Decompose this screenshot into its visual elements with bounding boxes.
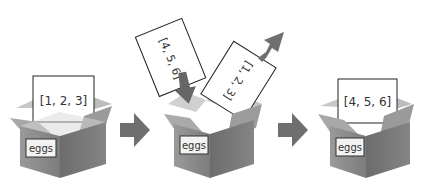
step3-box: [4, 5, 6] eggs bbox=[318, 79, 414, 178]
right-arrow-icon bbox=[120, 113, 150, 147]
step2-incoming-paper: [4, 5, 6] bbox=[135, 18, 205, 96]
step3-box-label: eggs bbox=[336, 138, 364, 156]
step1-box-label: eggs bbox=[26, 139, 56, 157]
right-arrow-icon bbox=[278, 113, 308, 147]
step1-box: [1, 2, 3] eggs bbox=[10, 76, 112, 178]
step2-box: [4, 5, 6] [1, 2, 3] eggs bbox=[135, 18, 284, 178]
step2-box-label: eggs bbox=[180, 136, 208, 154]
step1-label-text: eggs bbox=[29, 143, 53, 154]
eggs-reassignment-diagram: [1, 2, 3] eggs [4, 5, 6] [1, bbox=[0, 0, 426, 182]
step2-label-text: eggs bbox=[182, 140, 206, 151]
up-right-arrow-icon bbox=[258, 32, 284, 62]
step3-paper-text: [4, 5, 6] bbox=[344, 95, 392, 109]
step1-paper-text: [1, 2, 3] bbox=[40, 94, 88, 108]
step3-label-text: eggs bbox=[338, 142, 362, 153]
